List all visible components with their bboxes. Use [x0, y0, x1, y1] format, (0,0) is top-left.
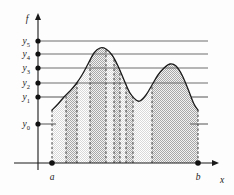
level-label-y4: y4 — [22, 49, 31, 61]
shaded-band — [133, 0, 152, 163]
y-axis-arrow-icon — [35, 13, 41, 20]
level-label-subscript: 2 — [27, 83, 30, 90]
x-point-label-a: a — [50, 172, 55, 182]
level-label-subscript: 1 — [27, 97, 30, 104]
level-label-subscript: 3 — [27, 68, 30, 75]
level-label-y0: y0 — [22, 119, 30, 131]
level-label-y1: y1 — [22, 92, 30, 104]
level-label-subscript: 5 — [27, 41, 30, 48]
y-axis-label: f — [26, 14, 30, 24]
shaded-band — [90, 0, 106, 163]
level-label-y2: y2 — [22, 78, 30, 90]
shaded-band — [126, 0, 133, 163]
shaded-band — [152, 0, 198, 163]
shaded-band — [106, 0, 114, 163]
level-label-subscript: 4 — [27, 54, 31, 61]
shaded-band — [66, 0, 77, 163]
x-point-dot-a — [49, 160, 55, 166]
level-label-y5: y5 — [22, 36, 30, 48]
x-axis-label: x — [219, 175, 225, 185]
level-tick-label-group: y5y4y3y2y1y0 — [22, 36, 31, 131]
level-dot-y5 — [35, 38, 40, 43]
level-dot-y2 — [35, 80, 40, 85]
x-point-dot-b — [195, 160, 201, 166]
shaded-band — [52, 0, 66, 163]
shaded-band — [77, 0, 90, 163]
lebesgue-integration-figure: y5y4y3y2y1y0 ab x f — [0, 0, 234, 195]
shaded-band — [114, 0, 120, 163]
figure-canvas: y5y4y3y2y1y0 ab x f — [0, 0, 234, 195]
level-label-y3: y3 — [22, 63, 30, 75]
x-point-label-b: b — [196, 172, 201, 182]
level-dot-y4 — [35, 51, 40, 56]
level-dot-y1 — [35, 94, 40, 99]
x-axis-arrow-icon — [212, 160, 219, 166]
level-label-subscript: 0 — [27, 124, 30, 131]
level-dot-y3 — [35, 65, 40, 70]
level-dot-y0 — [35, 121, 40, 126]
